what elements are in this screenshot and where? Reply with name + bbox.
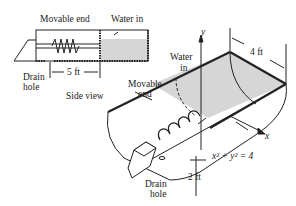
x-axis-label: x [265,131,269,141]
drain-label-2: hole [150,189,166,199]
y-axis-label: y [201,27,205,37]
trough-diagram [0,0,296,206]
depth-label: 2 ft [188,172,201,182]
drain-label-1: Drain [145,179,167,189]
side-view-drawing [14,30,148,78]
water-in-label-2: in [180,63,187,73]
side-water-in-label: Water in [111,14,143,24]
side-water [101,39,147,60]
side-movable-end-label: Movable end [40,14,90,24]
side-view-caption: Side view [66,91,104,101]
movable-end-label-1: Movable [128,79,162,89]
movable-end-label-2: end [138,89,152,99]
side-length-label: 5 ft [67,67,80,77]
side-drain-label-2: hole [23,82,39,92]
width-label: 4 ft [250,47,263,57]
water-in-label-1: Water [170,52,192,62]
side-drain-label-1: Drain [23,72,45,82]
circle-equation: x² + y² = 4 [212,151,253,161]
